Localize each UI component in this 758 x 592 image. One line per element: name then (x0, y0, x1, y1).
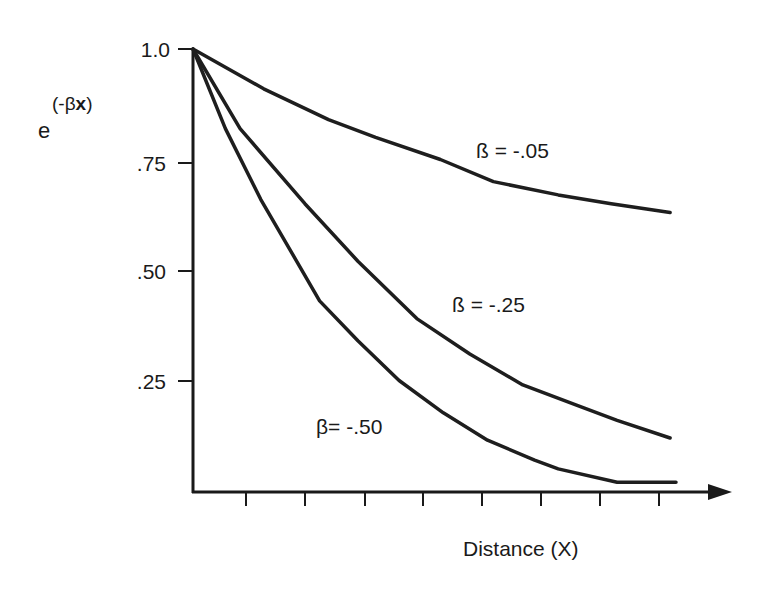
x-axis-arrow-icon (708, 484, 732, 500)
y-tick-labels: 1.0 .75 .50 .25 (137, 38, 170, 393)
curve-beta-05 (193, 49, 670, 213)
x-ticks (246, 492, 659, 506)
chart: e (-βx) 1.0 .75 .50 .25 ß = -.05 ß = -.2 (0, 0, 758, 592)
y-tick-label-0.25: .25 (137, 370, 166, 393)
y-ticks (178, 49, 193, 381)
y-tick-label-0.75: .75 (137, 152, 166, 175)
curve-label-beta-50: β= -.50 (316, 415, 382, 438)
y-axis-title-base: e (38, 118, 50, 143)
y-tick-label-0.50: .50 (137, 260, 166, 283)
curve-label-beta-05: ß = -.05 (476, 139, 549, 162)
curves (193, 49, 676, 482)
curve-beta-50 (193, 49, 676, 482)
x-axis-title: Distance (X) (463, 537, 579, 560)
y-axis-title: e (-βx) (38, 93, 93, 143)
curve-label-beta-25: ß = -.25 (452, 293, 525, 316)
y-axis-title-superscript: (-βx) (52, 93, 93, 114)
curve-labels: ß = -.05 ß = -.25 β= -.50 (316, 139, 549, 438)
curve-beta-25 (193, 49, 670, 438)
y-tick-label-1.0: 1.0 (141, 38, 170, 61)
